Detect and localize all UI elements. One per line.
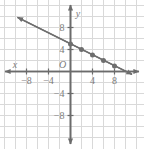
- x-tick-label-4: 4: [90, 75, 95, 86]
- y-tick-label-neg8: −8: [54, 110, 65, 121]
- y-tick-label-8: 8: [60, 22, 65, 33]
- y-axis-label: y: [75, 8, 81, 19]
- coordinate-plane-svg: −8 −4 4 8 8 4 −4 −8 x y O: [0, 0, 144, 149]
- x-tick-label-neg8: −8: [21, 75, 32, 86]
- y-tick-label-neg4: −4: [54, 88, 65, 99]
- y-tick-label-4: 4: [60, 44, 65, 55]
- data-point: [90, 53, 95, 58]
- coordinate-graph-figure: −8 −4 4 8 8 4 −4 −8 x y O: [0, 0, 144, 149]
- data-point: [68, 42, 73, 47]
- data-point: [79, 47, 84, 52]
- x-tick-label-8: 8: [112, 75, 117, 86]
- data-point: [101, 58, 106, 63]
- origin-label: O: [59, 59, 66, 70]
- x-tick-label-neg4: −4: [43, 75, 54, 86]
- data-point: [112, 64, 117, 69]
- x-axis-label: x: [12, 59, 18, 70]
